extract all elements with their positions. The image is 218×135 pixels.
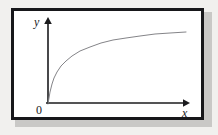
origin-label: 0 — [36, 104, 42, 116]
x-axis-label: x — [182, 107, 187, 119]
y-axis-label: y — [34, 16, 39, 28]
figure-root: y x 0 — [0, 0, 218, 135]
clipped-caption-text — [44, 0, 174, 3]
